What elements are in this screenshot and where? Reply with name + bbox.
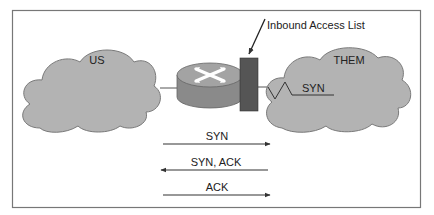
handshake-syn-ack-label: SYN, ACK [191, 156, 242, 168]
access-list-firewall-icon [240, 58, 258, 111]
inbound-access-list-label: Inbound Access List [267, 19, 365, 31]
them-label: THEM [333, 54, 364, 66]
us-label: US [89, 54, 104, 66]
tcp-handshake-diagram: US Inbound Access List THEM SYN SYN [0, 0, 434, 215]
router-icon [177, 63, 243, 108]
handshake-ack-label: ACK [206, 181, 229, 193]
handshake-syn-label: SYN [206, 130, 229, 142]
inbound-syn-label: SYN [302, 82, 325, 94]
